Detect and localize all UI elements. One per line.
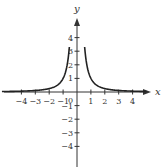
y-axis-arrow-icon (74, 18, 80, 26)
x-tick-label: 1 (88, 97, 93, 106)
x-tick-label: 2 (102, 97, 107, 106)
x-axis-label: x (155, 86, 161, 97)
y-tick-label: −4 (61, 142, 73, 151)
function-graph: −4−3−2−11234 −4−3−2−11234 x y 0 (0, 0, 161, 167)
y-axis-label: y (73, 3, 80, 14)
origin-label: 0 (68, 96, 73, 105)
x-tick-label: −3 (29, 97, 41, 106)
x-tick-label: −2 (43, 97, 55, 106)
x-tick-label: 3 (116, 97, 121, 106)
y-tick-label: 2 (68, 61, 73, 70)
x-tick-label: −4 (16, 97, 28, 106)
curve-left-branch (2, 47, 69, 91)
y-tick-label: 4 (68, 34, 73, 43)
x-tick-label: 4 (130, 97, 135, 106)
curve-right-branch (85, 47, 147, 91)
y-tick-label: 1 (68, 74, 73, 83)
y-tick-label: −2 (61, 115, 73, 124)
y-tick-label: −3 (61, 129, 73, 138)
